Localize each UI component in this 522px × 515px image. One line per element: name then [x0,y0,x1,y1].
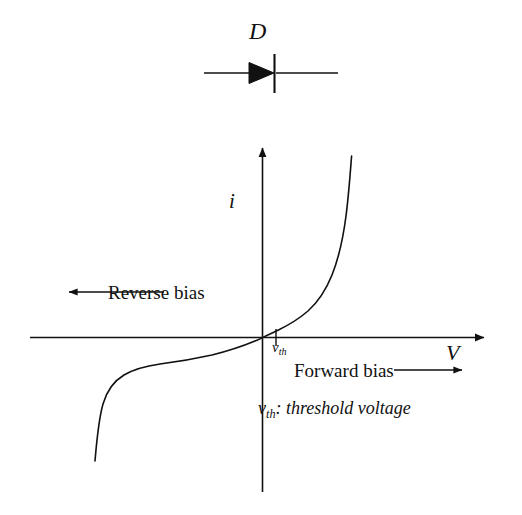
diode-symbol-label: D [249,18,266,45]
figure-canvas: D i V vth Reverse bias Forward bias vth:… [0,0,522,515]
diode-symbol [204,54,338,93]
y-axis-label: i [229,189,235,214]
threshold-tick-base: v [272,339,279,355]
x-axis-label: V [446,340,459,366]
caption-subscript: th [266,407,276,421]
axes [30,148,484,492]
caption-base: v [258,398,266,418]
diode-triangle-icon [249,63,274,84]
diode-iv-figure [0,0,522,515]
forward-bias-label: Forward bias [294,360,394,382]
threshold-voltage-caption: vth: threshold voltage [258,398,411,422]
threshold-voltage-tick-label: vth [272,339,287,357]
reverse-bias-label: Reverse bias [108,282,205,304]
caption-text: : threshold voltage [276,398,411,418]
threshold-tick-subscript: th [279,346,287,357]
